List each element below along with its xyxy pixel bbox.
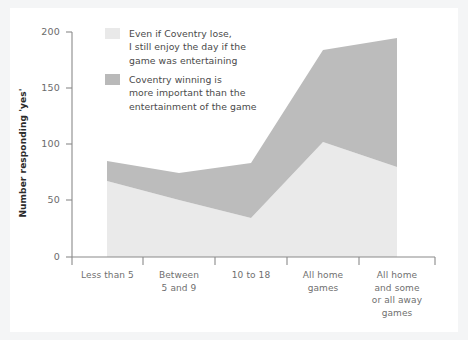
y-tick-label-150: 150 [26, 82, 60, 93]
y-tick-label-100: 100 [26, 138, 60, 149]
y-tick-label-200: 200 [26, 26, 60, 37]
legend-swatch-light [105, 28, 120, 39]
y-tick-label-50: 50 [26, 194, 60, 205]
figure-container: 200 150 100 50 0 Number responding 'yes'… [0, 0, 468, 340]
legend-swatch-dark [105, 74, 120, 85]
legend-entry-light[interactable]: Even if Coventry lose, I still enjoy the… [105, 27, 246, 67]
x-tick-label-less-than-5: Less than 5 [72, 269, 143, 282]
y-axis-title: Number responding 'yes' [18, 78, 28, 228]
legend-entry-dark[interactable]: Coventry winning is more important than … [105, 73, 257, 113]
legend-label-light: Even if Coventry lose, I still enjoy the… [129, 27, 246, 67]
legend-label-dark: Coventry winning is more important than … [129, 73, 257, 113]
y-tick-label-0: 0 [26, 251, 60, 262]
x-tick-label-all-home-games: All home games [287, 269, 359, 294]
x-tick-label-10-to-18: 10 to 18 [215, 269, 287, 282]
x-tick-label-all-home-and-away: All home and some or all away games [359, 269, 435, 319]
x-tick-label-between-5-and-9: Between 5 and 9 [143, 269, 215, 294]
